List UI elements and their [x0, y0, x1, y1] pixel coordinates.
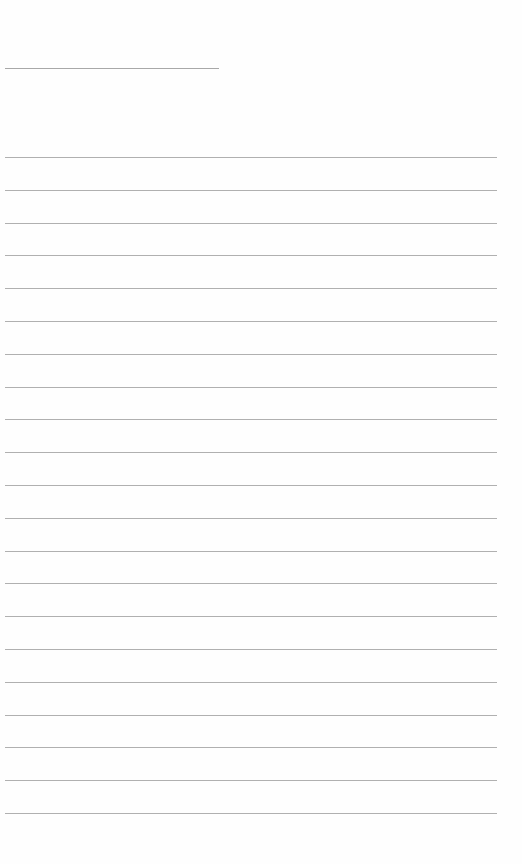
- lined-page: [0, 0, 522, 864]
- ruled-line: [5, 354, 497, 355]
- ruled-line: [5, 616, 497, 617]
- ruled-line: [5, 288, 497, 289]
- ruled-line: [5, 387, 497, 388]
- ruled-line: [5, 583, 497, 584]
- title-line: [5, 68, 219, 69]
- ruled-line: [5, 649, 497, 650]
- ruled-line: [5, 223, 497, 224]
- ruled-line: [5, 518, 497, 519]
- ruled-line: [5, 813, 497, 814]
- ruled-line: [5, 715, 497, 716]
- ruled-line: [5, 321, 497, 322]
- ruled-line: [5, 747, 497, 748]
- ruled-line: [5, 452, 497, 453]
- ruled-line: [5, 682, 497, 683]
- ruled-line: [5, 255, 497, 256]
- ruled-line: [5, 190, 497, 191]
- ruled-line: [5, 780, 497, 781]
- ruled-line: [5, 551, 497, 552]
- ruled-line: [5, 419, 497, 420]
- ruled-line: [5, 157, 497, 158]
- ruled-line: [5, 485, 497, 486]
